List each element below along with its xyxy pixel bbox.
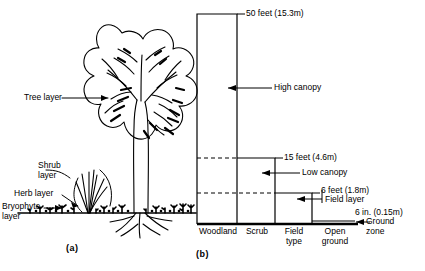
high-canopy-label: High canopy	[274, 83, 321, 93]
tree-roots	[110, 213, 172, 238]
bar-scrub	[237, 158, 275, 224]
axis-label-woodland: Woodland	[195, 227, 241, 237]
tree-branch-r3	[152, 95, 172, 103]
tree-trunk-right	[145, 102, 148, 213]
panel-a-tree-drawing	[18, 25, 197, 238]
height-50ft-label: 50 feet (15.3m)	[246, 9, 304, 19]
tree-branch-r4	[159, 104, 177, 117]
herb-layer-label: Herb layer	[14, 189, 53, 199]
bryophyte-layer-label: Bryophyte layer	[2, 202, 40, 221]
ground-moss-dots	[35, 210, 190, 213]
axis-label-scrub: Scrub	[238, 227, 276, 237]
shrub-layer-label: Shrub layer	[38, 161, 61, 180]
arrowhead-tree-layer	[101, 95, 108, 101]
axis-label-field-type: Field type	[275, 227, 313, 246]
tree-layer-label: Tree layer	[24, 93, 62, 103]
tree-canopy-outline	[84, 25, 197, 139]
tree-trunk	[134, 100, 137, 213]
height-15ft-label: 15 feet (4.6m)	[284, 153, 337, 163]
bar-field-type	[275, 193, 312, 224]
low-canopy-label: Low canopy	[302, 168, 347, 178]
arrowheads-a	[55, 95, 108, 211]
arrowhead-high-canopy	[228, 85, 236, 91]
tree-branch-center	[141, 55, 142, 101]
ground-zone-label: Ground zone	[366, 217, 394, 236]
field-layer-label: Field layer	[325, 195, 364, 205]
bar-woodland	[197, 14, 237, 224]
axis-label-open-ground: Open ground	[313, 227, 357, 246]
tree-branch-l2	[102, 59, 118, 78]
leader-herb-layer	[62, 195, 78, 206]
panel-b-caption: (b)	[196, 249, 209, 259]
panel-a-caption: (a)	[66, 243, 79, 253]
arrowhead-low-canopy	[262, 170, 270, 176]
tree-branch-main-left	[108, 70, 137, 100]
arrowhead-field-layer	[297, 196, 305, 202]
